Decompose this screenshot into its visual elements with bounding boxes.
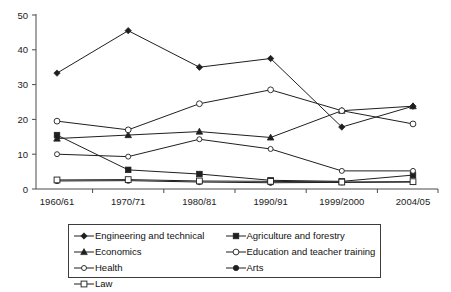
axes [32,14,438,193]
legend-entry[interactable]: Economics [73,244,225,260]
legend-label: Engineering and technical [95,230,204,242]
x-tick-labels: 1960/611970/711980/811990/911999/2000200… [40,196,430,207]
data-point-marker [197,171,203,177]
data-point-marker [54,118,60,124]
y-tick-label: 50 [17,10,28,21]
legend-marker-open-circle-small-icon [73,262,95,274]
x-tick-label: 1999/2000 [319,196,364,207]
legend-marker-filled-square-icon [225,230,247,242]
x-tick-label: 1990/91 [253,196,287,207]
y-tick-label: 20 [17,114,28,125]
series-layer [54,27,417,185]
y-tick-labels: 01020304050 [17,10,28,195]
series-line [57,139,413,171]
data-point-marker [125,177,131,183]
legend-label: Economics [95,246,141,258]
legend-entry[interactable]: Education and teacher training [225,244,377,260]
series-line [57,31,413,127]
x-tick-label: 1970/71 [111,196,145,207]
y-tick-label: 0 [23,184,28,195]
y-tick-label: 40 [17,44,28,55]
data-point-marker [411,168,416,173]
data-point-marker [125,27,131,33]
legend-grid: Engineering and technicalAgriculture and… [73,228,376,274]
legend-entry[interactable]: Law [73,276,225,292]
legend-label: Agriculture and forestry [247,230,345,242]
data-point-marker [268,178,274,184]
legend-marker-open-circle-icon [225,246,247,258]
data-point-marker [268,146,273,151]
y-tick-label: 10 [17,149,28,160]
legend-marker-filled-triangle-icon [73,246,95,258]
data-point-marker [196,64,202,70]
legend-label: Education and teacher training [247,246,376,258]
data-point-marker [125,127,131,133]
data-point-marker [233,249,239,255]
data-point-marker [339,179,345,185]
data-point-marker [196,128,203,134]
data-point-marker [126,154,131,159]
series-economics [54,103,417,141]
series-agriculture-and-forestry [54,132,416,184]
data-point-marker [233,265,238,270]
series-line [57,106,413,138]
data-point-marker [410,179,416,185]
y-tick-label: 30 [17,79,28,90]
legend-label: Arts [247,262,264,274]
plot-area: 01020304050 1960/611970/711980/811990/91… [0,0,451,226]
data-point-marker [410,121,416,127]
legend-marker-open-square-icon [73,278,95,290]
legend-entry[interactable]: Arts [225,260,377,276]
legend-label: Health [95,262,122,274]
data-point-marker [268,87,274,93]
data-point-marker [197,178,203,184]
data-point-marker [54,177,60,183]
legend-marker-filled-circle-icon [225,262,247,274]
data-point-marker [81,281,87,287]
data-point-marker [82,266,87,271]
chart-legend: Engineering and technicalAgriculture and… [68,224,381,278]
data-point-marker [54,70,60,76]
series-health [55,137,416,174]
series-line [57,135,413,181]
legend-entry[interactable]: Engineering and technical [73,228,225,244]
data-point-marker [81,233,87,239]
legend-marker-filled-diamond-icon [73,230,95,242]
data-point-marker [339,168,344,173]
data-point-marker [197,137,202,142]
data-point-marker [233,233,239,239]
legend-entry[interactable]: Agriculture and forestry [225,228,377,244]
x-tick-label: 1960/61 [40,196,74,207]
x-tick-label: 1980/81 [182,196,216,207]
data-point-marker [197,101,203,107]
data-point-marker [339,108,345,114]
legend-entry[interactable]: Health [73,260,225,276]
data-point-marker [125,167,131,173]
data-point-marker [55,152,60,157]
x-tick-label: 2004/05 [396,196,430,207]
legend-label: Law [95,278,112,290]
